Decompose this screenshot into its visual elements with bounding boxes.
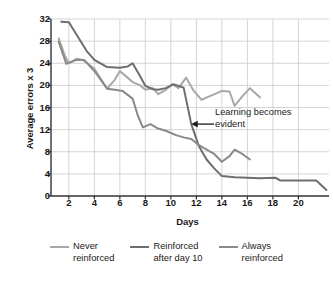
legend-label: Reinforced after day 10 <box>153 241 202 264</box>
y-tick-label: 4 <box>24 169 50 179</box>
x-axis-title: Days <box>45 216 330 227</box>
x-tick-label: 6 <box>108 198 132 208</box>
annotation-line-1: Learning becomes <box>215 107 292 117</box>
legend-label: Always reinforced <box>242 241 283 264</box>
y-tick-label: 12 <box>24 125 50 135</box>
y-tick-label: 16 <box>24 103 50 113</box>
x-tick-label: 16 <box>235 198 259 208</box>
legend-swatch-icon <box>50 246 69 248</box>
x-tick-label: 20 <box>286 198 310 208</box>
y-axis-ticks: 048121620242832 <box>0 0 50 281</box>
series-line-1 <box>59 38 260 105</box>
y-tick-label: 20 <box>24 81 50 91</box>
legend-item-1[interactable]: Never reinforced <box>50 241 114 264</box>
x-tick-label: 2 <box>57 198 81 208</box>
legend-item-2[interactable]: Reinforced after day 10 <box>130 241 202 264</box>
x-tick-label: 14 <box>210 198 234 208</box>
x-tick-label: 4 <box>82 198 106 208</box>
x-tick-label: 18 <box>261 198 285 208</box>
annotation-learning-becomes-evident: Learning becomes evident <box>215 107 327 130</box>
legend-label: Never reinforced <box>73 241 114 264</box>
chart-legend: Never reinforcedReinforced after day 10A… <box>0 241 333 264</box>
series-line-3 <box>59 42 250 162</box>
x-tick-label: 10 <box>159 198 183 208</box>
y-tick-label: 8 <box>24 147 50 157</box>
chart-figure: Average errors x 3 048121620242832 24681… <box>0 0 333 281</box>
annotation-arrow <box>191 121 214 128</box>
x-tick-label: 8 <box>133 198 157 208</box>
y-tick-label: 24 <box>24 59 50 69</box>
y-tick-label: 32 <box>24 14 50 24</box>
annotation-line-2: evident <box>215 119 245 129</box>
x-tick-label: 12 <box>184 198 208 208</box>
legend-swatch-icon <box>219 246 238 248</box>
legend-swatch-icon <box>130 246 149 248</box>
legend-item-3[interactable]: Always reinforced <box>219 241 283 264</box>
series-line-2 <box>61 22 326 190</box>
y-tick-label: 28 <box>24 36 50 46</box>
y-tick-label: 0 <box>24 191 50 201</box>
